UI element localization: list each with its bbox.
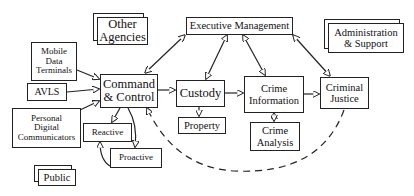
node-administration-support-stack: Administration & Support — [324, 19, 404, 53]
node-personal-digital-communicators: Personal Digital Communicators — [12, 108, 81, 148]
node-mobile-data-terminals: Mobile Data Terminals — [31, 42, 77, 81]
node-crime-information: Crime Information — [244, 76, 304, 113]
node-custody: Custody — [176, 80, 225, 107]
edge-cj-to-cc-dashed — [147, 108, 344, 171]
node-proactive: Proactive — [110, 148, 162, 168]
node-executive-management: Executive Management — [186, 17, 293, 35]
edge-pdc-to-cc — [80, 101, 99, 110]
node-criminal-justice: Criminal Justice — [320, 77, 369, 109]
node-other-agencies: Other Agencies — [93, 13, 148, 45]
node-reactive: Reactive — [83, 123, 132, 142]
edge-crimeinfo-exec — [243, 35, 265, 75]
node-avls: AVLS — [27, 83, 67, 101]
other-agencies-label: Other Agencies — [97, 17, 148, 45]
edge-cc-reactive — [112, 108, 120, 122]
administration-support-label: Administration & Support — [328, 23, 404, 53]
edge-mdt-to-cc — [77, 70, 99, 79]
node-crime-analysis: Crime Analysis — [250, 122, 300, 151]
edge-proactive-reactive — [100, 142, 110, 166]
public-label: Public — [38, 169, 76, 186]
edge-avls-to-cc — [67, 89, 99, 92]
edge-cc-exec — [145, 35, 185, 73]
node-property: Property — [178, 117, 226, 134]
edge-custody-exec — [206, 35, 227, 79]
node-public: Public — [34, 165, 76, 186]
node-command-control: Command & Control — [100, 74, 158, 108]
